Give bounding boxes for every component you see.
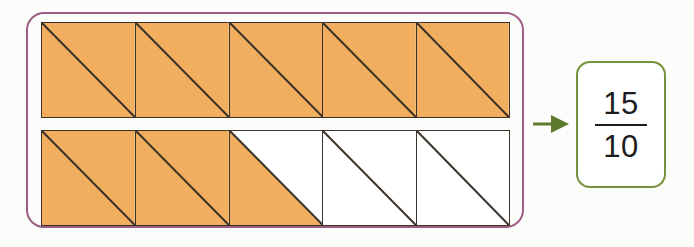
fraction-denominator: 10 bbox=[599, 129, 642, 164]
fraction: 15 10 bbox=[595, 86, 647, 164]
cell-row1-col3 bbox=[229, 22, 323, 118]
half-split-square-icon bbox=[417, 23, 509, 117]
fraction-bar bbox=[595, 124, 647, 126]
answer-fraction-box: 15 10 bbox=[576, 61, 666, 188]
cell-row2-col1 bbox=[41, 130, 135, 226]
right-arrow-icon bbox=[533, 112, 571, 136]
fraction-strip-top bbox=[41, 22, 510, 118]
half-split-square-icon bbox=[136, 131, 229, 225]
half-split-square-icon bbox=[42, 131, 135, 225]
half-split-square-icon bbox=[136, 23, 229, 117]
cell-row2-col5 bbox=[416, 130, 510, 226]
fraction-numerator: 15 bbox=[599, 86, 642, 121]
cell-row1-col5 bbox=[416, 22, 510, 118]
cell-row2-col4 bbox=[322, 130, 416, 226]
cell-row1-col2 bbox=[135, 22, 229, 118]
cell-row2-col2 bbox=[135, 130, 229, 226]
half-split-square-icon bbox=[42, 23, 135, 117]
half-split-square-icon bbox=[417, 131, 509, 225]
cell-row1-col1 bbox=[41, 22, 135, 118]
cell-row1-col4 bbox=[322, 22, 416, 118]
fraction-strip-bottom bbox=[41, 130, 510, 226]
half-split-square-icon bbox=[230, 131, 323, 225]
cell-row2-col3 bbox=[229, 130, 323, 226]
half-split-square-icon bbox=[230, 23, 323, 117]
half-split-square-icon bbox=[323, 23, 416, 117]
worksheet-figure: ODUZVÁNÍ ZLOMKY POLOVINY celek bbox=[0, 0, 694, 247]
half-split-square-icon bbox=[323, 131, 416, 225]
